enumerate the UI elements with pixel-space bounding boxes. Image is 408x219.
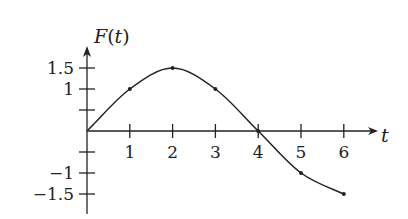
x-tick-label: 6 — [338, 142, 349, 162]
y-tick-label: −1 — [49, 163, 74, 183]
x-tick-label: 4 — [253, 142, 264, 162]
y-axis-title: F(t) — [93, 25, 130, 47]
data-point-marker — [128, 87, 132, 91]
data-point-marker — [299, 171, 303, 175]
x-axis-title: t — [381, 124, 389, 146]
y-tick-label: 1 — [63, 79, 74, 99]
x-tick-label: 5 — [296, 142, 307, 162]
data-point-marker — [171, 66, 175, 70]
data-point-marker — [342, 192, 346, 196]
y-tick-label: −1.5 — [33, 184, 74, 204]
x-tick-label: 1 — [124, 142, 135, 162]
function-graph: 1234561.51−1−1.5 F(t) t — [0, 0, 408, 219]
x-tick-label: 3 — [210, 142, 221, 162]
y-tick-label: 1.5 — [47, 58, 74, 78]
data-point-marker — [213, 87, 217, 91]
data-point-marker — [256, 129, 260, 133]
x-tick-label: 2 — [167, 142, 178, 162]
